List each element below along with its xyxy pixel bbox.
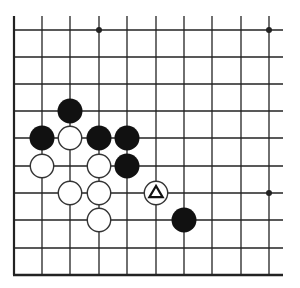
white-stone-body: [87, 154, 110, 177]
black-stone: [115, 126, 140, 151]
white-stone-body: [87, 181, 110, 204]
black-stone: [30, 126, 55, 151]
grid-lines: [13, 16, 283, 275]
hoshi-point: [266, 190, 272, 196]
white-stone-body: [58, 181, 81, 204]
black-stone: [172, 208, 197, 233]
black-stone: [115, 154, 140, 179]
white-stone-body: [58, 126, 81, 149]
black-stone-body: [115, 154, 140, 179]
black-stone: [58, 99, 83, 124]
white-stone: [144, 181, 167, 204]
white-stone: [87, 181, 110, 204]
white-stone: [58, 126, 81, 149]
white-stone-body: [30, 154, 53, 177]
black-stone-body: [30, 126, 55, 151]
white-stone: [58, 181, 81, 204]
go-board: [0, 0, 300, 288]
hoshi-point: [266, 27, 272, 33]
white-stone: [87, 154, 110, 177]
black-stone: [87, 126, 112, 151]
hoshi-point: [96, 27, 102, 33]
white-stone-body: [87, 208, 110, 231]
white-stone: [30, 154, 53, 177]
black-stone-body: [87, 126, 112, 151]
white-stone: [87, 208, 110, 231]
black-stone-body: [58, 99, 83, 124]
black-stone-body: [115, 126, 140, 151]
black-stone-body: [172, 208, 197, 233]
